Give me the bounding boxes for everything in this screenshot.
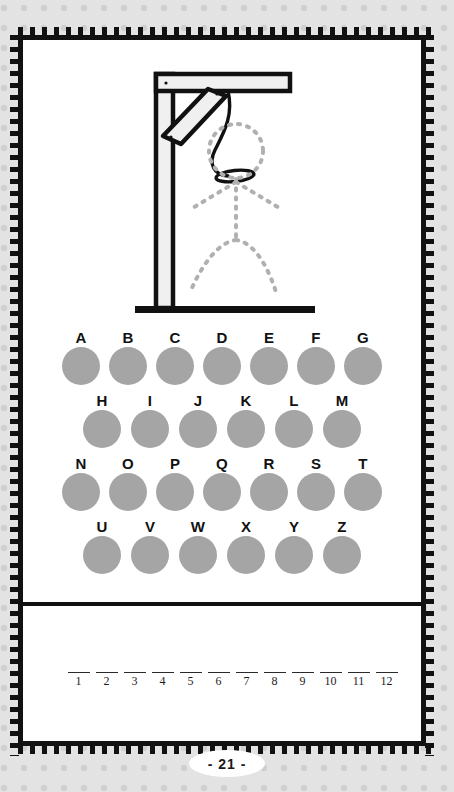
- letter-cell-p[interactable]: P: [156, 456, 194, 511]
- letter-circle[interactable]: [297, 473, 335, 511]
- answer-blank-line[interactable]: [292, 672, 314, 673]
- letter-row: A B C D E: [23, 330, 421, 385]
- answer-blank-line[interactable]: [264, 672, 286, 673]
- answer-blank-11[interactable]: 11: [346, 672, 371, 688]
- gallows-bolt-icon: [164, 81, 167, 84]
- answer-blank-line[interactable]: [320, 672, 342, 673]
- letter-circle[interactable]: [250, 473, 288, 511]
- letter-circle[interactable]: [62, 473, 100, 511]
- letter-label: T: [358, 456, 367, 473]
- answer-blank-10[interactable]: 10: [318, 672, 343, 688]
- letter-cell-i[interactable]: I: [131, 393, 169, 448]
- letter-cell-v[interactable]: V: [131, 519, 169, 574]
- letter-cell-y[interactable]: Y: [275, 519, 313, 574]
- letter-label: K: [240, 393, 251, 410]
- letter-cell-m[interactable]: M: [323, 393, 361, 448]
- answer-blank-number: 2: [104, 675, 110, 688]
- letter-cell-b[interactable]: B: [109, 330, 147, 385]
- answer-blank-line[interactable]: [180, 672, 202, 673]
- answer-blank-1[interactable]: 1: [66, 672, 91, 688]
- letter-circle[interactable]: [109, 347, 147, 385]
- letter-label: F: [311, 330, 320, 347]
- answer-blank-6[interactable]: 6: [206, 672, 231, 688]
- letter-cell-e[interactable]: E: [250, 330, 288, 385]
- letter-cell-u[interactable]: U: [83, 519, 121, 574]
- letter-circle[interactable]: [344, 347, 382, 385]
- letter-circle[interactable]: [156, 473, 194, 511]
- letter-cell-a[interactable]: A: [62, 330, 100, 385]
- letter-cell-q[interactable]: Q: [203, 456, 241, 511]
- gallows-illustration-icon: [135, 68, 320, 320]
- answer-blank-4[interactable]: 4: [150, 672, 175, 688]
- answer-blank-7[interactable]: 7: [234, 672, 259, 688]
- letter-label: P: [170, 456, 180, 473]
- answer-blank-line[interactable]: [208, 672, 230, 673]
- letter-circle[interactable]: [344, 473, 382, 511]
- letter-circle[interactable]: [109, 473, 147, 511]
- answer-blank-number: 6: [216, 675, 222, 688]
- letter-cell-z[interactable]: Z: [323, 519, 361, 574]
- answer-blank-number: 11: [353, 675, 365, 688]
- letter-cell-t[interactable]: T: [344, 456, 382, 511]
- answer-blank-line[interactable]: [152, 672, 174, 673]
- answer-blank-2[interactable]: 2: [94, 672, 119, 688]
- letter-circle[interactable]: [275, 410, 313, 448]
- letter-circle[interactable]: [275, 536, 313, 574]
- answer-blanks-row: 1 2 3 4 5 6 7: [66, 672, 399, 688]
- answer-blank-line[interactable]: [68, 672, 90, 673]
- letter-circle[interactable]: [203, 473, 241, 511]
- answer-blank-5[interactable]: 5: [178, 672, 203, 688]
- answer-blank-line[interactable]: [96, 672, 118, 673]
- letter-cell-r[interactable]: R: [250, 456, 288, 511]
- letter-label: Q: [216, 456, 228, 473]
- letter-cell-g[interactable]: G: [344, 330, 382, 385]
- answer-blank-line[interactable]: [236, 672, 258, 673]
- answer-blank-number: 8: [272, 675, 278, 688]
- answer-blank-number: 1: [76, 675, 82, 688]
- answer-blank-line[interactable]: [348, 672, 370, 673]
- stick-figure-leg-right: [236, 240, 276, 292]
- letter-circle[interactable]: [323, 536, 361, 574]
- letter-cell-x[interactable]: X: [227, 519, 265, 574]
- answer-blank-12[interactable]: 12: [374, 672, 399, 688]
- letter-label: G: [357, 330, 369, 347]
- letter-circle[interactable]: [203, 347, 241, 385]
- letter-cell-s[interactable]: S: [297, 456, 335, 511]
- letter-label: E: [264, 330, 274, 347]
- letter-circle[interactable]: [227, 536, 265, 574]
- letter-circle[interactable]: [83, 410, 121, 448]
- letter-circle[interactable]: [250, 347, 288, 385]
- stick-figure-arm-right: [236, 182, 281, 209]
- letter-circle[interactable]: [131, 536, 169, 574]
- letter-circle[interactable]: [297, 347, 335, 385]
- letter-label: W: [191, 519, 205, 536]
- letter-label: Z: [337, 519, 346, 536]
- letter-cell-w[interactable]: W: [179, 519, 217, 574]
- letter-circle[interactable]: [179, 410, 217, 448]
- letter-cell-n[interactable]: N: [62, 456, 100, 511]
- letter-cell-o[interactable]: O: [109, 456, 147, 511]
- answer-blank-8[interactable]: 8: [262, 672, 287, 688]
- letter-circle[interactable]: [323, 410, 361, 448]
- answer-blank-line[interactable]: [376, 672, 398, 673]
- letter-circle[interactable]: [227, 410, 265, 448]
- border-ticks-right: [425, 35, 434, 756]
- letter-circle[interactable]: [131, 410, 169, 448]
- letter-cell-d[interactable]: D: [203, 330, 241, 385]
- letter-cell-f[interactable]: F: [297, 330, 335, 385]
- puzzle-page-card: A B C D E: [18, 35, 426, 746]
- letter-cell-h[interactable]: H: [83, 393, 121, 448]
- letter-circle[interactable]: [62, 347, 100, 385]
- answer-blank-3[interactable]: 3: [122, 672, 147, 688]
- answer-blank-number: 5: [188, 675, 194, 688]
- letter-circle[interactable]: [83, 536, 121, 574]
- letter-cell-c[interactable]: C: [156, 330, 194, 385]
- letter-cell-k[interactable]: K: [227, 393, 265, 448]
- answer-blank-line[interactable]: [124, 672, 146, 673]
- letter-cell-j[interactable]: J: [179, 393, 217, 448]
- letter-circle[interactable]: [156, 347, 194, 385]
- letter-circle[interactable]: [179, 536, 217, 574]
- letter-cell-l[interactable]: L: [275, 393, 313, 448]
- answer-blank-9[interactable]: 9: [290, 672, 315, 688]
- stick-figure-arm-left: [191, 182, 236, 209]
